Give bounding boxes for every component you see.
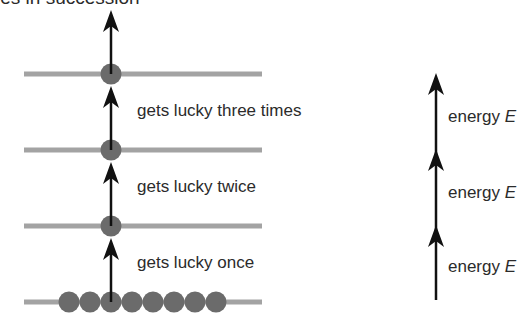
energy-word: energy: [448, 257, 505, 276]
energy-symbol: E: [505, 107, 517, 126]
energy-symbol: E: [505, 257, 517, 276]
step-label: gets lucky twice: [137, 177, 256, 196]
ground-state-ball: [143, 292, 164, 313]
step-label: gets lucky once: [137, 253, 254, 272]
ground-state-ball: [206, 292, 227, 313]
ground-state-ball: [185, 292, 206, 313]
energy-word: energy: [448, 107, 505, 126]
energy-label: energy E: [448, 257, 517, 276]
ground-state-ball: [164, 292, 185, 313]
energy-word: energy: [448, 183, 505, 202]
ground-state-ball: [122, 292, 143, 313]
energy-label: energy E: [448, 183, 517, 202]
energy-label: energy E: [448, 107, 517, 126]
ground-state-ball: [59, 292, 80, 313]
step-label: gets lucky three times: [137, 101, 301, 120]
left-panel: gets lucky oncegets lucky twicegets luck…: [24, 10, 301, 313]
title-fragment: ies in succession: [0, 0, 140, 8]
right-panel: energy Eenergy Eenergy E: [428, 73, 517, 300]
energy-levels-diagram: ies in succession gets lucky oncegets lu…: [0, 0, 531, 319]
ground-state-ball: [80, 292, 101, 313]
energy-symbol: E: [505, 183, 517, 202]
